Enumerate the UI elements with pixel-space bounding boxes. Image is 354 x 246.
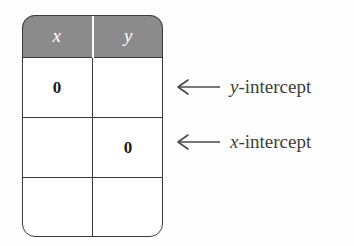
- cell-r1-c1: 0: [93, 118, 164, 178]
- left-arrow-icon: [174, 133, 222, 151]
- cell-r2-c0: [22, 178, 93, 237]
- annotation-y-label: y-intercept: [230, 76, 311, 98]
- intercepts-table-container: x y 0 0: [22, 15, 163, 237]
- annotation-x-suffix: -intercept: [238, 131, 311, 152]
- intercepts-table: x y 0 0: [22, 15, 163, 237]
- intercepts-table-figure: x y 0 0 y-intercept: [0, 0, 354, 246]
- column-header-y: y: [93, 15, 164, 58]
- annotation-y-intercept: y-intercept: [174, 76, 311, 98]
- annotation-x-label: x-intercept: [230, 131, 311, 153]
- cell-r0-c1: [93, 58, 164, 118]
- annotation-y-suffix: -intercept: [238, 76, 311, 97]
- left-arrow-icon: [174, 78, 222, 96]
- table-row: 0: [22, 58, 163, 118]
- table-row: [22, 178, 163, 237]
- table-row: 0: [22, 118, 163, 178]
- table-header-row: x y: [22, 15, 163, 58]
- cell-r2-c1: [93, 178, 164, 237]
- cell-r0-c0: 0: [22, 58, 93, 118]
- column-header-x: x: [22, 15, 93, 58]
- annotation-x-intercept: x-intercept: [174, 131, 311, 153]
- cell-r1-c0: [22, 118, 93, 178]
